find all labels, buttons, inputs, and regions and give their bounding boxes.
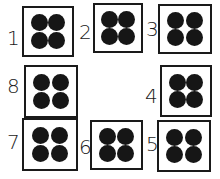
dot-icon [185, 146, 202, 163]
box-6 [90, 120, 143, 170]
dot-icon [166, 129, 183, 146]
box-number-label: 1 [7, 28, 20, 48]
dot-icon [185, 129, 202, 146]
dot-icon [118, 28, 135, 45]
dot-icon [186, 91, 203, 108]
box-number-label: 6 [79, 137, 92, 157]
box-3 [158, 4, 212, 54]
box-number-label: 5 [146, 134, 159, 154]
dot-icon [48, 14, 65, 31]
box-number-label: 4 [145, 86, 158, 106]
dot-icon [186, 12, 203, 29]
box-number-label: 7 [7, 132, 20, 152]
dot-icon [167, 12, 184, 29]
box-number-label: 3 [146, 19, 159, 39]
dot-icon [117, 128, 134, 145]
dot-icon [118, 11, 135, 28]
dot-icon [186, 74, 203, 91]
dot-icon [169, 74, 186, 91]
dot-icon [99, 128, 116, 145]
dot-icon [33, 92, 50, 109]
box-7 [22, 118, 78, 171]
dot-icon [166, 146, 183, 163]
box-4 [160, 65, 212, 117]
dot-icon [51, 145, 68, 162]
dot-icon [52, 92, 69, 109]
dot-icon [51, 127, 68, 144]
box-number-label: 2 [79, 22, 92, 42]
dot-icon [169, 91, 186, 108]
dot-icon [32, 127, 49, 144]
dot-icon [186, 29, 203, 46]
dot-icon [32, 145, 49, 162]
dot-icon [31, 32, 48, 49]
dot-icon [99, 145, 116, 162]
dot-icon [101, 11, 118, 28]
dot-icon [31, 14, 48, 31]
dot-icon [52, 74, 69, 91]
dot-icon [117, 145, 134, 162]
box-5 [157, 120, 211, 172]
box-1 [22, 6, 74, 57]
box-number-label: 8 [7, 76, 20, 96]
box-2 [93, 3, 143, 53]
dot-icon [167, 29, 184, 46]
dot-icon [48, 32, 65, 49]
box-8 [24, 65, 78, 118]
dot-icon [33, 74, 50, 91]
dot-icon [101, 28, 118, 45]
